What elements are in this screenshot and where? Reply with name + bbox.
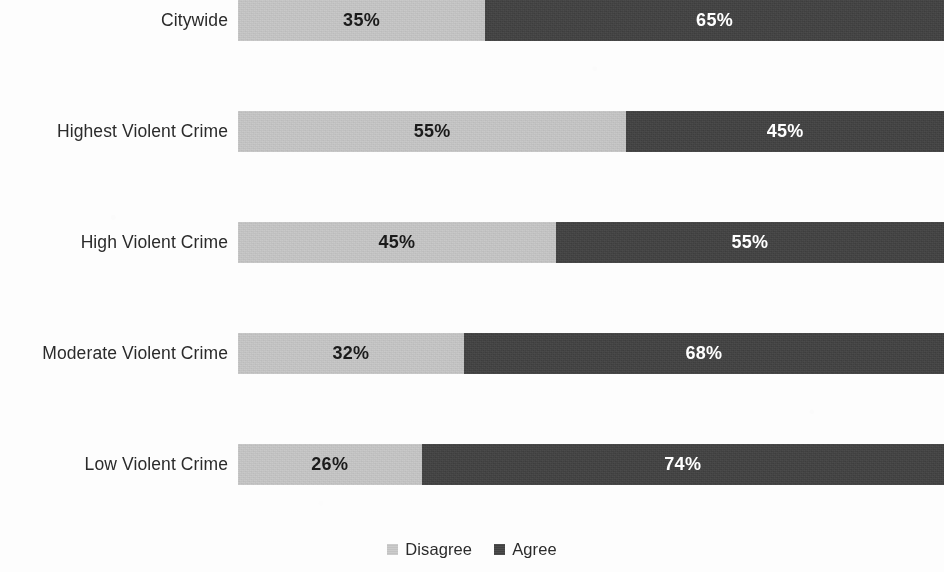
bar-value-disagree: 55% <box>414 121 451 142</box>
bar-segment-agree[interactable]: 55% <box>556 222 944 263</box>
bar-segment-agree[interactable]: 45% <box>626 111 944 152</box>
bar-value-agree: 65% <box>696 10 733 31</box>
table-row: Moderate Violent Crime 32% 68% <box>0 333 944 374</box>
bar-segment-agree[interactable]: 74% <box>422 444 944 485</box>
bar-value-disagree: 26% <box>311 454 348 475</box>
category-label: Citywide <box>161 0 228 41</box>
bar-segment-agree[interactable]: 68% <box>464 333 944 374</box>
bar-segment-disagree[interactable]: 45% <box>238 222 556 263</box>
bar-track: 45% 55% <box>238 222 944 263</box>
bar-segment-disagree[interactable]: 32% <box>238 333 464 374</box>
bar-value-agree: 45% <box>767 121 804 142</box>
stacked-bar-chart: Citywide 35% 65% Highest Violent Crime 5… <box>0 0 944 572</box>
bar-value-agree: 68% <box>685 343 722 364</box>
bar-segment-disagree[interactable]: 26% <box>238 444 422 485</box>
table-row: Highest Violent Crime 55% 45% <box>0 111 944 152</box>
bar-value-disagree: 35% <box>343 10 380 31</box>
bar-value-agree: 74% <box>664 454 701 475</box>
chart-legend: Disagree Agree <box>0 536 944 562</box>
bar-track: 26% 74% <box>238 444 944 485</box>
bar-segment-agree[interactable]: 65% <box>485 0 944 41</box>
legend-item-agree[interactable]: Agree <box>494 540 557 559</box>
table-row: High Violent Crime 45% 55% <box>0 222 944 263</box>
bar-segment-disagree[interactable]: 35% <box>238 0 485 41</box>
category-label: Low Violent Crime <box>85 444 228 485</box>
table-row: Low Violent Crime 26% 74% <box>0 444 944 485</box>
bar-track: 55% 45% <box>238 111 944 152</box>
legend-swatch-icon <box>387 544 398 555</box>
category-label: Highest Violent Crime <box>57 111 228 152</box>
bar-value-disagree: 45% <box>378 232 415 253</box>
table-row: Citywide 35% 65% <box>0 0 944 41</box>
legend-swatch-icon <box>494 544 505 555</box>
bar-value-agree: 55% <box>731 232 768 253</box>
legend-label: Agree <box>512 540 557 559</box>
bar-value-disagree: 32% <box>332 343 369 364</box>
bar-track: 35% 65% <box>238 0 944 41</box>
legend-item-disagree[interactable]: Disagree <box>387 540 472 559</box>
bar-segment-disagree[interactable]: 55% <box>238 111 626 152</box>
bar-track: 32% 68% <box>238 333 944 374</box>
legend-label: Disagree <box>405 540 472 559</box>
category-label: Moderate Violent Crime <box>42 333 228 374</box>
plot-area: Citywide 35% 65% Highest Violent Crime 5… <box>0 0 944 520</box>
category-label: High Violent Crime <box>81 222 228 263</box>
